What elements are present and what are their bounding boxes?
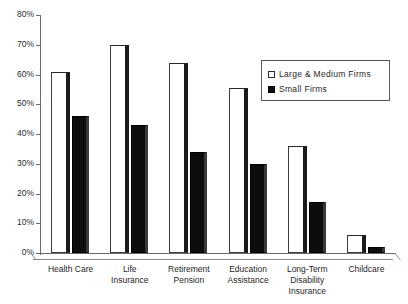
plot-area [41, 15, 396, 253]
bar-group [337, 15, 396, 253]
chart-legend: Large & Medium Firms Small Firms [261, 60, 390, 101]
legend-label: Small Firms [279, 85, 327, 94]
bar-large-medium-firms [288, 146, 307, 253]
bar-large-medium-firms [169, 63, 188, 253]
y-axis-tick-label: 50% [2, 99, 34, 108]
bar-group [219, 15, 278, 253]
y-axis-tick-label: 70% [2, 40, 34, 49]
bar-large-medium-firms [347, 235, 366, 253]
bar-large-medium-firms [51, 72, 70, 253]
y-axis-tick-label: 40% [2, 129, 34, 138]
legend-item-small-firms: Small Firms [268, 82, 389, 97]
bar-small-firms [250, 164, 267, 253]
x-axis-baseline [40, 253, 396, 254]
bar-large-medium-firms [110, 45, 129, 253]
x-axis-label: Childcare [331, 264, 402, 275]
baseline-front-edge [33, 259, 393, 260]
bar-small-firms [309, 202, 326, 253]
bar-small-firms [190, 152, 207, 253]
bar-small-firms [131, 125, 148, 253]
bar-small-firms [72, 116, 89, 253]
filled-square-icon [268, 86, 275, 93]
bar-group [159, 15, 218, 253]
open-square-icon [268, 71, 275, 78]
y-axis-tick-label: 20% [2, 189, 34, 198]
bar-chart: 0%10%20%30%40%50%60%70%80% Health CareLi… [0, 0, 408, 304]
y-axis-tick-label: 10% [2, 218, 34, 227]
bar-group [41, 15, 100, 253]
y-axis-tick-label: 30% [2, 159, 34, 168]
legend-label: Large & Medium Firms [279, 70, 371, 79]
y-axis-tick-label: 80% [2, 10, 34, 19]
legend-item-large-medium-firms: Large & Medium Firms [268, 67, 389, 82]
y-axis-tick-label: 60% [2, 70, 34, 79]
bar-large-medium-firms [229, 88, 248, 253]
bar-group [100, 15, 159, 253]
bar-group [278, 15, 337, 253]
